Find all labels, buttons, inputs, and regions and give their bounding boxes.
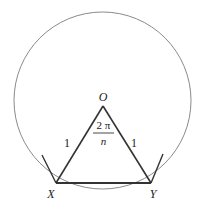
label-vertex-y: Y [150, 187, 158, 201]
label-side-right: 1 [131, 136, 137, 150]
label-vertex-x: X [46, 187, 55, 201]
label-center-o: O [99, 90, 108, 104]
radius-oy [103, 106, 151, 183]
polygon-circle-diagram: O 2 π n 1 1 X Y [0, 0, 205, 208]
label-angle-denominator: n [101, 135, 107, 147]
label-angle-numerator: 2 π [97, 119, 111, 131]
adjacent-edge-stub-right [151, 154, 163, 183]
adjacent-edge-stub-left [42, 155, 56, 183]
label-side-left: 1 [64, 136, 70, 150]
